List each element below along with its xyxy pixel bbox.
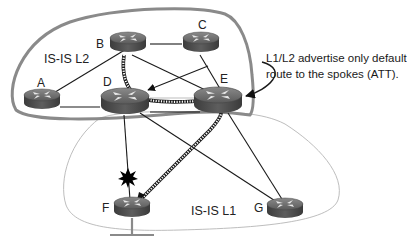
router-label-b: B [96,38,104,50]
annotation-line-2: route to the spokes (ATT). [266,66,407,82]
lan-segment-f [110,218,154,235]
router-c-icon[interactable] [183,32,219,52]
router-g-icon[interactable] [267,198,303,218]
router-label-e: E [220,73,228,85]
router-a-icon[interactable] [24,89,60,109]
area-label-l2: IS-IS L2 [44,53,89,66]
area-label-l1: IS-IS L1 [191,205,236,218]
router-f-icon[interactable] [114,197,150,217]
annotation-line-1: L1/L2 advertise only default [266,50,407,66]
router-b-icon[interactable] [110,32,146,52]
starburst-icon [118,168,138,188]
router-label-g: G [254,202,263,214]
annotation-text: L1/L2 advertise only default route to th… [266,50,407,82]
router-label-a: A [37,77,45,89]
router-e-icon[interactable] [194,87,242,113]
router-label-d: D [103,76,112,88]
router-d-icon[interactable] [101,88,149,114]
links [42,44,285,206]
dotted-routing-path [123,55,221,204]
router-label-c: C [198,19,207,31]
router-label-f: F [102,202,109,214]
